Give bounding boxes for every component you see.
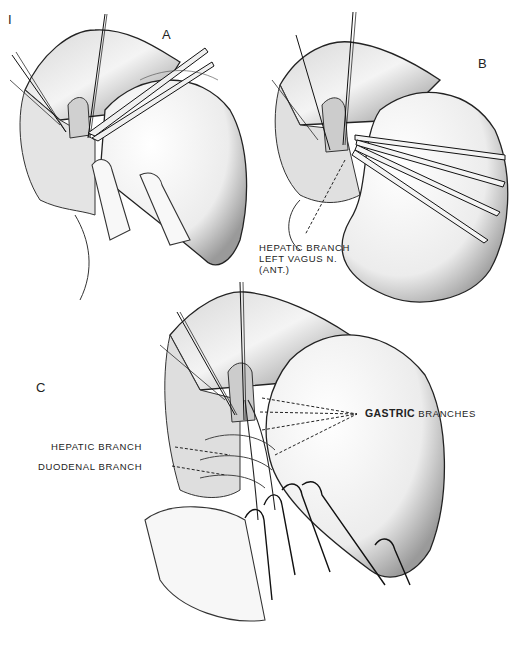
panel-c-drawing: [145, 282, 444, 621]
panel-a-drawing: [10, 14, 247, 300]
surgical-illustration: I A B C HEPATIC BRANCH LEFT VAGUS N. (AN…: [0, 0, 522, 645]
annotation-gastric-branches: GASTRIC BRANCHES: [365, 408, 476, 419]
annotation-line: LEFT VAGUS N.: [259, 253, 350, 264]
panel-label-a: A: [162, 27, 171, 42]
annotation-hepatic-branch: HEPATIC BRANCH: [51, 441, 142, 452]
annotation-line: HEPATIC BRANCH: [259, 242, 350, 253]
annotation-gastric-rest: BRANCHES: [418, 408, 476, 419]
panel-label-b: B: [478, 56, 487, 71]
annotation-hepatic-branch-left-vagus: HEPATIC BRANCH LEFT VAGUS N. (ANT.): [259, 242, 350, 275]
annotation-line: (ANT.): [259, 264, 350, 275]
annotation-duodenal-branch: DUODENAL BRANCH: [38, 461, 142, 472]
panel-label-c: C: [36, 380, 45, 395]
figure-number: I: [8, 12, 12, 27]
illustration-drawing: [0, 0, 522, 645]
annotation-gastric-bold: GASTRIC: [365, 407, 415, 419]
